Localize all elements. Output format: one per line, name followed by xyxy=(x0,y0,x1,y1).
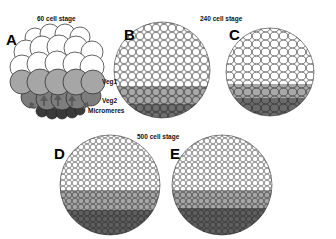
embryo-500-cell-d xyxy=(55,134,165,239)
label-veg1: Veg1 xyxy=(102,78,117,85)
embryo-500-cell-e xyxy=(170,134,280,239)
embryo-60-cell xyxy=(10,24,105,119)
panel-letter-e: E xyxy=(170,146,180,161)
panel-letter-b: B xyxy=(124,27,135,42)
embryo-figure xyxy=(0,0,336,239)
label-veg2: Veg2 xyxy=(102,97,117,104)
panel-letter-a: A xyxy=(6,32,17,47)
panel-letter-d: D xyxy=(54,146,65,161)
panel-letter-c: C xyxy=(229,27,240,42)
label-micromeres: Micromeres xyxy=(88,107,125,114)
